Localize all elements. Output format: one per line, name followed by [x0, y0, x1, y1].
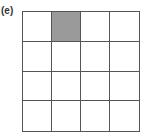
grid-4x4 [22, 11, 140, 132]
grid-cell-r2-c2 [81, 72, 110, 102]
grid-cell-r0-c0 [23, 12, 52, 42]
grid-cell-r0-c2 [81, 12, 110, 42]
grid-cell-r3-c1 [52, 101, 81, 131]
grid-cell-r1-c2 [81, 42, 110, 72]
grid-cell-r2-c1 [52, 72, 81, 102]
figure-label: (e) [1, 5, 13, 16]
grid-cell-r1-c1 [52, 42, 81, 72]
grid-cell-r1-c3 [110, 42, 139, 72]
grid-cell-r2-c3 [110, 72, 139, 102]
grid-cell-r3-c0 [23, 101, 52, 131]
grid-cell-r1-c0 [23, 42, 52, 72]
grid-cell-r0-c1-shaded [52, 12, 81, 42]
grid-cell-r2-c0 [23, 72, 52, 102]
grid-cell-r0-c3 [110, 12, 139, 42]
grid-cell-r3-c3 [110, 101, 139, 131]
grid-cell-r3-c2 [81, 101, 110, 131]
